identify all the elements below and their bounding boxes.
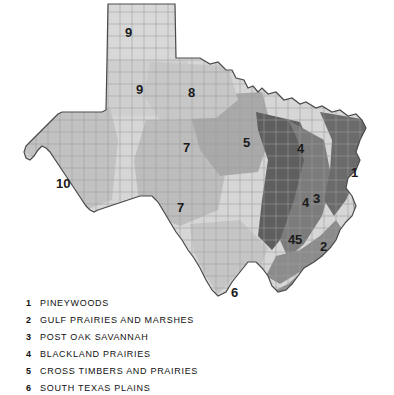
legend-item-6: 6 SOUTH TEXAS PLAINS: [26, 383, 356, 395]
legend-number: 1: [26, 298, 40, 308]
legend-label: BLACKLAND PRAIRIES: [40, 349, 151, 359]
legend-label: POST OAK SAVANNAH: [40, 332, 148, 342]
legend-label: SOUTH TEXAS PLAINS: [40, 383, 150, 393]
legend-number: 6: [26, 383, 40, 393]
legend-number: 5: [26, 366, 40, 376]
legend-label: CROSS TIMBERS AND PRAIRIES: [40, 366, 198, 376]
legend-item-2: 2 GULF PRAIRIES AND MARSHES: [26, 315, 356, 332]
map-graphic: [0, 0, 394, 300]
state-regions-layer: [0, 0, 394, 300]
legend-item-3: 3 POST OAK SAVANNAH: [26, 332, 356, 349]
legend-label: GULF PRAIRIES AND MARSHES: [40, 315, 194, 325]
legend-number: 4: [26, 349, 40, 359]
legend-item-5: 5 CROSS TIMBERS AND PRAIRIES: [26, 366, 356, 383]
legend: 1 PINEYWOODS 2 GULF PRAIRIES AND MARSHES…: [26, 298, 356, 395]
legend-item-4: 4 BLACKLAND PRAIRIES: [26, 349, 356, 366]
legend-label: PINEYWOODS: [40, 298, 109, 308]
legend-number: 2: [26, 315, 40, 325]
legend-number: 3: [26, 332, 40, 342]
legend-item-1: 1 PINEYWOODS: [26, 298, 356, 315]
texas-ecoregions-map: 1 2 3 4 4 4 5 5 6 7 7 8 9 9 10: [0, 0, 394, 300]
